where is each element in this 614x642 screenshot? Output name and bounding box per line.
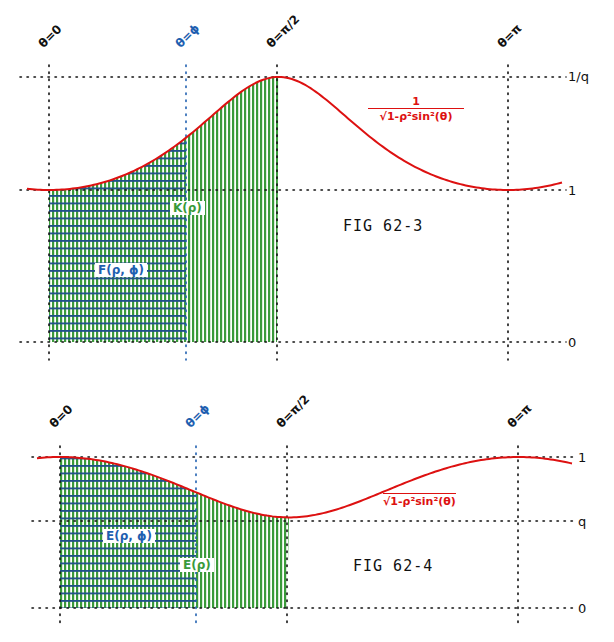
- plot-canvas: [0, 0, 614, 642]
- region-label-K: K(ρ): [170, 201, 205, 215]
- tick-label-one: 1: [568, 184, 576, 197]
- region-label-F: F(ρ, ϕ): [95, 263, 147, 277]
- formula-denominator: √1-ρ²sin²(θ): [368, 109, 464, 122]
- tick-label-one-over-q: 1/q: [568, 70, 589, 83]
- figure-title-62-4: FIG 62-4: [353, 559, 433, 574]
- region-label-E: E(ρ): [180, 558, 214, 572]
- tick-label-one-2: 1: [578, 451, 586, 464]
- formula-expression: √1-ρ²sin²(θ): [383, 493, 456, 508]
- fig-62-3-plot: [20, 65, 566, 360]
- formula-sqrt: √1-ρ²sin²(θ): [383, 496, 456, 507]
- function-curve: [27, 77, 562, 190]
- figure-sheet: θ=0 θ=ϕ θ=π/2 θ=π 1/q 1 0 1 √1-ρ²sin²(θ)…: [0, 0, 614, 642]
- tick-label-q: q: [578, 515, 586, 528]
- formula-reciprocal-sqrt: 1 √1-ρ²sin²(θ): [368, 96, 464, 122]
- region-label-E-phi: E(ρ, ϕ): [103, 529, 155, 543]
- formula-numerator: 1: [368, 96, 464, 109]
- tick-label-zero-2: 0: [578, 602, 586, 615]
- tick-label-zero: 0: [568, 336, 576, 349]
- figure-title-62-3: FIG 62-3: [343, 219, 423, 234]
